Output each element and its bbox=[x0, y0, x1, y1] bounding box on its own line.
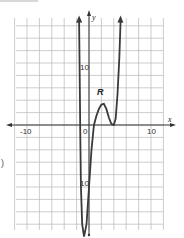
x-tick-0: 0 bbox=[83, 127, 88, 136]
curve-arrow-left-icon bbox=[76, 16, 82, 23]
curve-arrow-right-icon bbox=[117, 16, 123, 23]
y-tick-10: 10 bbox=[80, 63, 89, 72]
y-tick-neg10: 10 bbox=[80, 179, 89, 188]
x-axis-label: x bbox=[167, 115, 172, 124]
x-tick-10: 10 bbox=[147, 127, 156, 136]
region-label-r: R bbox=[97, 87, 104, 97]
y-axis-label: y bbox=[91, 13, 96, 22]
graph: y x -10 0 10 10 10 R bbox=[0, 0, 184, 238]
x-axis-arrow-left-icon bbox=[6, 123, 12, 127]
y-axis-end-dot-icon bbox=[88, 234, 90, 236]
x-tick-neg10: -10 bbox=[20, 127, 32, 136]
y-axis-arrow-up-icon bbox=[87, 10, 91, 16]
